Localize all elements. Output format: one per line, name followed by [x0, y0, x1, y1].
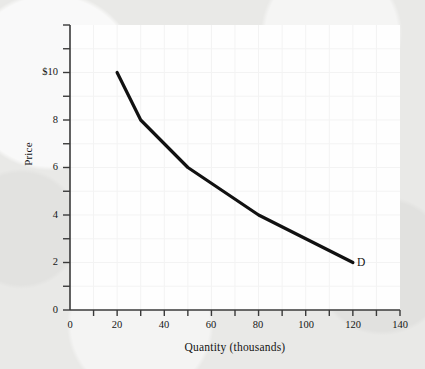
- chart-canvas: [0, 0, 425, 369]
- x-axis-ticks: [94, 310, 400, 316]
- y-tick-label-0: 0: [24, 305, 58, 316]
- demand-curve-label: D: [357, 256, 365, 268]
- x-tick-label-120: 120: [338, 320, 368, 331]
- x-tick-label-0: 0: [55, 320, 85, 331]
- x-axis-title: Quantity (thousands): [70, 341, 400, 353]
- chart-figure: 0 2 4 6 8 $10 0 20 40 60 80 100 120 140 …: [0, 0, 425, 369]
- y-axis-title: Price: [22, 124, 34, 184]
- x-tick-label-140: 140: [385, 320, 415, 331]
- x-tick-label-60: 60: [196, 320, 226, 331]
- x-tick-label-80: 80: [243, 320, 273, 331]
- x-tick-label-20: 20: [102, 320, 132, 331]
- demand-curve: [117, 73, 353, 263]
- y-axis-ticks: [63, 25, 70, 310]
- x-tick-label-100: 100: [291, 320, 321, 331]
- y-tick-label-10: $10: [18, 67, 58, 78]
- y-tick-label-4: 4: [24, 210, 58, 221]
- x-tick-label-40: 40: [149, 320, 179, 331]
- y-tick-label-2: 2: [24, 257, 58, 268]
